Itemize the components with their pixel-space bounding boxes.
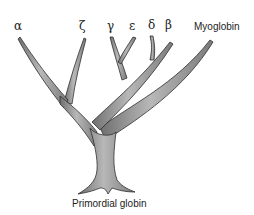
tree-drawing — [0, 0, 254, 215]
root-label-primordial-globin: Primordial globin — [72, 199, 146, 209]
leaf-label-delta: δ — [148, 19, 155, 31]
leaf-label-myoglobin: Myoglobin — [194, 22, 240, 32]
trunk — [78, 128, 135, 194]
globin-evolution-tree: α ζ γ ε δ β Myoglobin Primordial globin — [0, 0, 254, 215]
branch-alpha-zeta — [60, 96, 97, 146]
leaf-label-epsilon: ε — [129, 20, 135, 32]
branch-zeta — [64, 38, 86, 104]
branch-delta — [150, 36, 155, 60]
branch-epsilon — [118, 37, 136, 64]
leaf-label-zeta: ζ — [79, 20, 86, 32]
leaf-label-gamma: γ — [107, 20, 114, 32]
leaf-label-alpha: α — [14, 20, 22, 32]
leaf-label-beta: β — [165, 19, 172, 31]
